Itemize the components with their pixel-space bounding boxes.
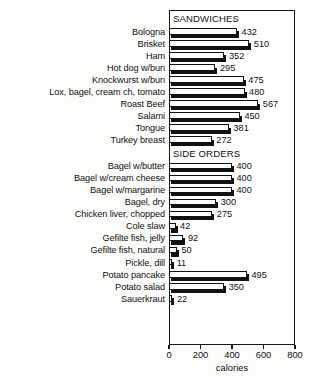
category-label: Chicken liver, chopped xyxy=(75,210,165,219)
bar xyxy=(169,199,216,206)
category-label: Gefilte fish, natural xyxy=(90,246,165,255)
bar xyxy=(169,175,232,182)
category-label: Hot dog w/bun xyxy=(107,64,165,73)
category-label: Turkey breast xyxy=(110,136,165,145)
bar-row: 350 xyxy=(169,283,295,294)
category-label: Brisket xyxy=(138,40,165,49)
bar-row: 450 xyxy=(169,112,295,123)
category-label: Ham xyxy=(146,52,165,61)
bar-row: 432 xyxy=(169,28,295,39)
bar xyxy=(169,52,224,59)
bar-row: 400 xyxy=(169,163,295,174)
bar-row: 272 xyxy=(169,136,295,147)
category-label: Roast Beef xyxy=(121,100,165,109)
bar-value-label: 432 xyxy=(242,27,257,37)
bar xyxy=(169,295,172,302)
bar xyxy=(169,40,249,47)
bar-value-label: 22 xyxy=(177,294,187,304)
bar-row: 22 xyxy=(169,295,295,306)
bar-row: 495 xyxy=(169,271,295,282)
bar-value-label: 42 xyxy=(180,221,190,231)
bar xyxy=(169,136,212,143)
bar-row: 275 xyxy=(169,211,295,222)
category-label: Tongue xyxy=(135,124,165,133)
bar-value-label: 475 xyxy=(248,75,263,85)
bar-value-label: 295 xyxy=(220,63,235,73)
x-tick-label: 400 xyxy=(224,350,240,360)
bar xyxy=(169,211,212,218)
category-label: Pickle, dill xyxy=(125,259,165,268)
bar-value-label: 300 xyxy=(221,197,236,207)
bar xyxy=(169,163,232,170)
bar-row: 400 xyxy=(169,187,295,198)
bar-row: 50 xyxy=(169,247,295,258)
bar-row: 92 xyxy=(169,235,295,246)
bar-value-label: 381 xyxy=(234,123,249,133)
bar-value-label: 510 xyxy=(254,39,269,49)
bar-row: 381 xyxy=(169,124,295,135)
category-label: Cole slaw xyxy=(126,222,165,231)
bar xyxy=(169,271,247,278)
category-label-gutter: BolognaBrisketHamHot dog w/bunKnockwurst… xyxy=(0,10,167,345)
bar-row: 300 xyxy=(169,199,295,210)
bar xyxy=(169,235,183,242)
bar xyxy=(169,259,172,266)
bar-value-label: 272 xyxy=(216,135,231,145)
bar xyxy=(169,124,229,131)
bar-row: 295 xyxy=(169,64,295,75)
category-label: Potato salad xyxy=(115,283,165,292)
x-tick-label: 600 xyxy=(256,350,272,360)
bar-value-label: 275 xyxy=(217,209,232,219)
bar xyxy=(169,88,245,95)
bars-layer: SANDWICHES432510352295475480567450381272… xyxy=(169,10,295,345)
category-label: Bagel, dry xyxy=(125,198,165,207)
bar xyxy=(169,112,240,119)
bar-value-label: 495 xyxy=(251,270,266,280)
bar-row: 480 xyxy=(169,88,295,99)
category-label: Sauerkraut xyxy=(121,295,165,304)
bar-value-label: 567 xyxy=(263,99,278,109)
bar-value-label: 450 xyxy=(244,111,259,121)
bar xyxy=(169,28,237,35)
bar-value-label: 400 xyxy=(237,185,252,195)
bar-value-label: 92 xyxy=(188,233,198,243)
category-label: Bagel w/butter xyxy=(108,162,165,171)
bar-row: 475 xyxy=(169,76,295,87)
bar-value-label: 480 xyxy=(249,87,264,97)
bar-row: 352 xyxy=(169,52,295,63)
category-label: Gefilte fish, jelly xyxy=(103,234,165,243)
category-label: Bologna xyxy=(132,28,165,37)
x-axis-title: calories xyxy=(216,363,248,373)
bar-value-label: 400 xyxy=(237,173,252,183)
bar-row: 510 xyxy=(169,40,295,51)
section-title-side-orders: SIDE ORDERS xyxy=(173,149,240,159)
x-tick-label: 200 xyxy=(193,350,209,360)
category-label: Bagel w/cream cheese xyxy=(74,174,165,183)
bar-value-label: 350 xyxy=(229,282,244,292)
x-tick-label: 800 xyxy=(287,350,303,360)
category-label: Lox, bagel, cream ch, tomato xyxy=(49,88,165,97)
bar xyxy=(169,64,215,71)
bar-row: 42 xyxy=(169,223,295,234)
bar xyxy=(169,76,244,83)
bar-row: 11 xyxy=(169,259,295,270)
bar-value-label: 11 xyxy=(177,258,187,268)
x-axis: calories 0200400600800 xyxy=(169,345,295,377)
bar-value-label: 50 xyxy=(181,245,191,255)
bar xyxy=(169,247,177,254)
category-label: Salami xyxy=(138,112,165,121)
bar-value-label: 400 xyxy=(237,161,252,171)
category-label: Bagel w/margarine xyxy=(90,186,165,195)
bar xyxy=(169,100,258,107)
bar-value-label: 352 xyxy=(229,51,244,61)
calories-bar-chart: BolognaBrisketHamHot dog w/bunKnockwurst… xyxy=(0,0,322,377)
bar-row: 567 xyxy=(169,100,295,111)
bar-row: 400 xyxy=(169,175,295,186)
bar xyxy=(169,187,232,194)
category-label: Knockwurst w/bun xyxy=(92,76,165,85)
x-tick-label: 0 xyxy=(166,350,171,360)
category-label: Potato pancake xyxy=(103,271,165,280)
bar xyxy=(169,283,224,290)
bar xyxy=(169,223,176,230)
section-title-sandwiches: SANDWICHES xyxy=(173,14,239,24)
